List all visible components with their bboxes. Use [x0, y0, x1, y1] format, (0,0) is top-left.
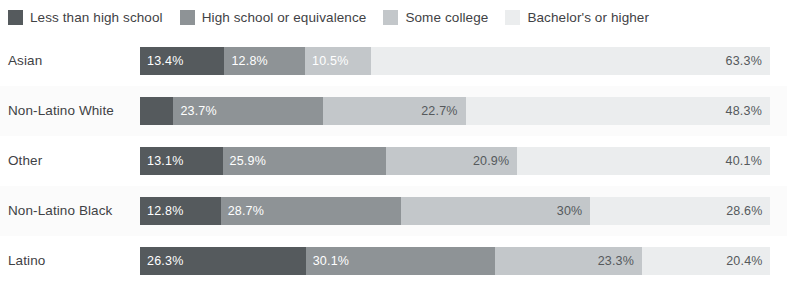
bar-segment-value: 28.6%: [726, 197, 762, 225]
bar-segment[interactable]: 28.7%: [221, 197, 402, 225]
bar-segment-value: 22.7%: [421, 97, 457, 125]
stacked-bar: 26.3%30.1%23.3%20.4%: [140, 247, 770, 275]
bar-segment-value: 20.9%: [473, 147, 509, 175]
legend-item-label: Less than high school: [30, 10, 163, 25]
legend-item-label: High school or equivalence: [202, 10, 367, 25]
bar-segment[interactable]: 63.3%: [371, 47, 770, 75]
bar-segment[interactable]: 26.3%: [140, 247, 306, 275]
bar-segment-value: 30.1%: [313, 247, 349, 275]
stacked-bar-chart: Asian13.4%12.8%10.5%63.3%Non-Latino Whit…: [0, 36, 787, 288]
bar-segment[interactable]: 30.1%: [306, 247, 496, 275]
bar-segment-value: 30%: [557, 197, 583, 225]
chart-row: Latino26.3%30.1%23.3%20.4%: [0, 236, 787, 286]
bar-segment[interactable]: 12.8%: [140, 197, 221, 225]
bar-segment[interactable]: 25.9%: [223, 147, 386, 175]
stacked-bar: 23.7%22.7%48.3%: [140, 97, 770, 125]
bar-segment-value: 12.8%: [231, 47, 267, 75]
legend-item[interactable]: Less than high school: [8, 10, 163, 25]
stacked-bar: 12.8%28.7%30%28.6%: [140, 197, 770, 225]
legend-item-label: Some college: [405, 10, 488, 25]
bar-segment-value: 63.3%: [726, 47, 762, 75]
category-label: Non-Latino White: [8, 86, 114, 136]
bar-segment[interactable]: 40.1%: [517, 147, 770, 175]
legend-item[interactable]: High school or equivalence: [180, 10, 367, 25]
bar-segment[interactable]: 22.7%: [323, 97, 466, 125]
bar-segment-value: 26.3%: [147, 247, 183, 275]
legend-swatch-less-than-high-school: [8, 10, 23, 25]
bar-segment-value: 25.9%: [230, 147, 266, 175]
bar-segment[interactable]: 13.1%: [140, 147, 223, 175]
bar-segment-value: 13.1%: [147, 147, 183, 175]
stacked-bar: 13.4%12.8%10.5%63.3%: [140, 47, 770, 75]
bar-segment-value: 23.3%: [598, 247, 634, 275]
legend-swatch-high-school-or-equivalence: [180, 10, 195, 25]
legend-item[interactable]: Bachelor's or higher: [505, 10, 649, 25]
chart-row: Non-Latino White23.7%22.7%48.3%: [0, 86, 787, 136]
chart-row: Other13.1%25.9%20.9%40.1%: [0, 136, 787, 186]
bar-segment[interactable]: 28.6%: [590, 197, 770, 225]
chart-legend: Less than high schoolHigh school or equi…: [8, 6, 666, 28]
bar-segment-value: 28.7%: [228, 197, 264, 225]
bar-segment[interactable]: 23.3%: [495, 247, 642, 275]
bar-segment[interactable]: 48.3%: [466, 97, 770, 125]
bar-segment[interactable]: [140, 97, 173, 125]
bar-segment[interactable]: 20.9%: [386, 147, 518, 175]
category-label: Asian: [8, 36, 42, 86]
legend-item[interactable]: Some college: [383, 10, 488, 25]
category-label: Other: [8, 136, 42, 186]
category-label: Non-Latino Black: [8, 186, 112, 236]
bar-segment[interactable]: 12.8%: [224, 47, 305, 75]
chart-row: Non-Latino Black12.8%28.7%30%28.6%: [0, 186, 787, 236]
bar-segment[interactable]: 30%: [401, 197, 590, 225]
legend-item-label: Bachelor's or higher: [527, 10, 649, 25]
bar-segment-value: 20.4%: [726, 247, 762, 275]
bar-segment[interactable]: 10.5%: [305, 47, 371, 75]
bar-segment-value: 48.3%: [726, 97, 762, 125]
bar-segment-value: 12.8%: [147, 197, 183, 225]
bar-segment-value: 40.1%: [726, 147, 762, 175]
bar-segment[interactable]: 13.4%: [140, 47, 224, 75]
bar-segment[interactable]: 20.4%: [642, 247, 770, 275]
stacked-bar: 13.1%25.9%20.9%40.1%: [140, 147, 770, 175]
bar-segment-value: 13.4%: [147, 47, 183, 75]
chart-row: Asian13.4%12.8%10.5%63.3%: [0, 36, 787, 86]
category-label: Latino: [8, 236, 45, 286]
legend-swatch-some-college: [383, 10, 398, 25]
bar-segment[interactable]: 23.7%: [173, 97, 322, 125]
bar-segment-value: 23.7%: [180, 97, 216, 125]
legend-swatch-bachelors-or-higher: [505, 10, 520, 25]
bar-segment-value: 10.5%: [312, 47, 348, 75]
